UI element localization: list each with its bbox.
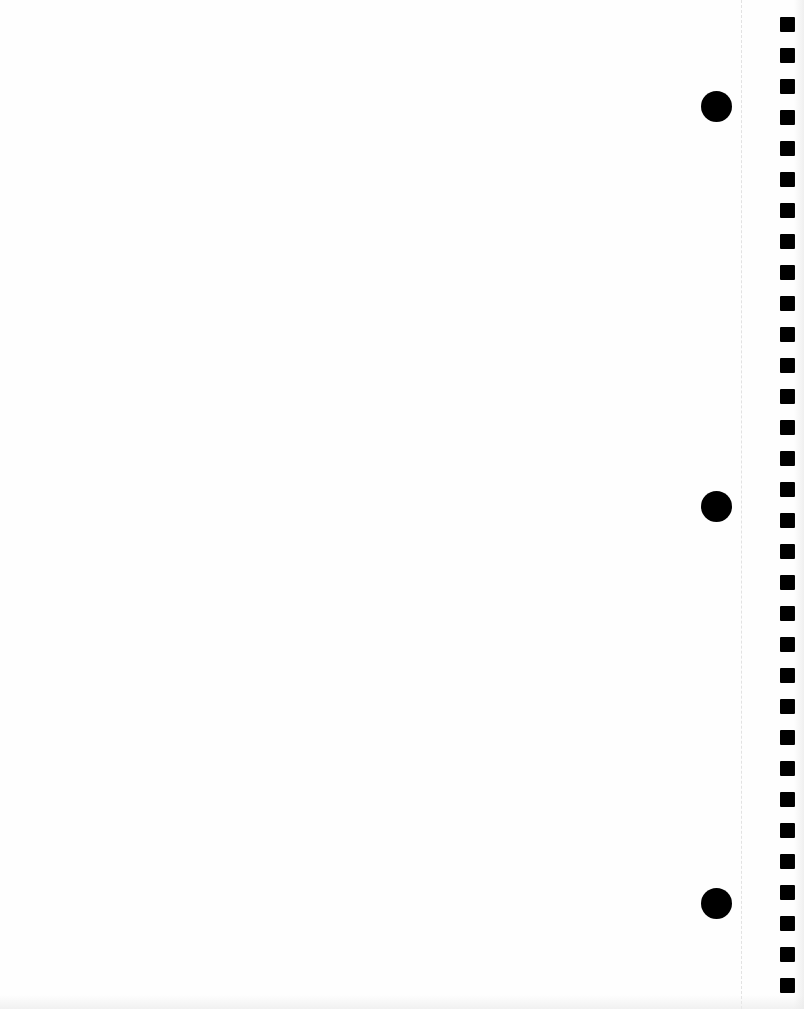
spiral-hole xyxy=(780,327,795,342)
perforation-line xyxy=(741,0,742,1009)
spiral-hole xyxy=(780,730,795,745)
spiral-hole xyxy=(780,854,795,869)
spiral-hole xyxy=(780,823,795,838)
spiral-hole xyxy=(780,606,795,621)
spiral-hole xyxy=(780,141,795,156)
spiral-hole xyxy=(780,792,795,807)
spiral-hole xyxy=(780,110,795,125)
spiral-hole xyxy=(780,48,795,63)
spiral-hole xyxy=(780,978,795,993)
spiral-hole xyxy=(780,668,795,683)
page-edge-shadow xyxy=(794,0,804,1009)
spiral-hole xyxy=(780,358,795,373)
spiral-hole xyxy=(780,575,795,590)
spiral-hole xyxy=(780,203,795,218)
spiral-hole xyxy=(780,79,795,94)
spiral-hole xyxy=(780,916,795,931)
spiral-hole xyxy=(780,761,795,776)
spiral-hole xyxy=(780,482,795,497)
spiral-hole xyxy=(780,234,795,249)
spiral-hole xyxy=(780,265,795,280)
ring-hole-middle xyxy=(701,491,732,522)
spiral-hole xyxy=(780,885,795,900)
ring-hole-top xyxy=(701,91,732,122)
spiral-hole xyxy=(780,699,795,714)
spiral-hole xyxy=(780,389,795,404)
spiral-hole xyxy=(780,947,795,962)
spiral-hole xyxy=(780,451,795,466)
spiral-hole xyxy=(780,17,795,32)
spiral-hole xyxy=(780,172,795,187)
spiral-hole xyxy=(780,544,795,559)
notebook-page xyxy=(0,0,804,1009)
spiral-hole xyxy=(780,420,795,435)
ring-hole-bottom xyxy=(701,888,732,919)
spiral-hole xyxy=(780,513,795,528)
spiral-hole xyxy=(780,637,795,652)
page-bottom-shadow xyxy=(0,995,804,1009)
spiral-hole xyxy=(780,296,795,311)
